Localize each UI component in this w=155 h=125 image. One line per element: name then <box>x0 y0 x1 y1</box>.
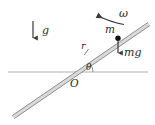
weight-label: mg <box>124 46 141 59</box>
omega-label: ω <box>119 7 128 20</box>
angle-label: θ <box>86 62 92 72</box>
mass-label: m <box>105 23 115 35</box>
physics-diagram: ω g m mg r O θ <box>0 0 155 125</box>
gravity-label: g <box>42 24 49 37</box>
radius-label: r <box>81 40 87 51</box>
diagram-canvas: ω g m mg r O θ <box>0 0 155 125</box>
point-mass-dot <box>115 36 120 41</box>
origin-label: O <box>70 77 79 89</box>
